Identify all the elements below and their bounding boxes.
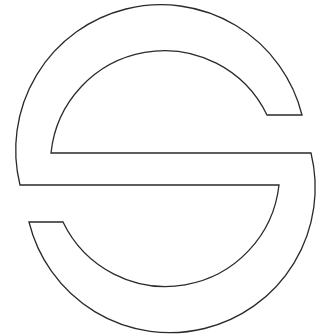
s-logo-icon (0, 0, 330, 336)
s-logo-outline (16, 5, 315, 333)
logo-canvas: S circle logo outline (0, 0, 330, 336)
